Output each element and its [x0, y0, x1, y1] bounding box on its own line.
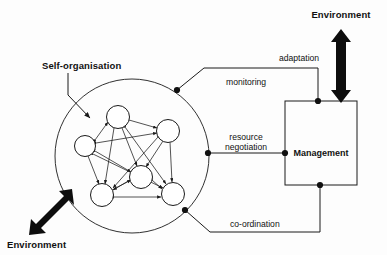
- network-node: [75, 136, 96, 157]
- management-label: Management: [293, 148, 348, 158]
- environment-top-label: Environment: [311, 9, 371, 20]
- network-node: [162, 183, 185, 206]
- network-node: [91, 184, 114, 207]
- diagram-canvas: Management Self-organisation monitoring …: [0, 0, 387, 255]
- coordination-circle-dot: [182, 207, 188, 213]
- adaptation-box-top-dot: [315, 98, 321, 104]
- environment-top-arrow: [331, 29, 351, 103]
- coordination-label: co-ordination: [230, 219, 280, 229]
- resource-negotiation-label-line2: negotiation: [225, 142, 267, 152]
- resource-negotiation-label-line1: resource: [229, 132, 263, 142]
- monitoring-circle-dot: [174, 87, 180, 93]
- environment-bottom-label: Environment: [7, 239, 67, 250]
- self-organisation-label: Self-organisation: [42, 60, 121, 71]
- environment-bottom-arrow: [29, 189, 74, 235]
- self-organisation-pointer: [68, 73, 90, 118]
- network-nodes: [75, 106, 185, 207]
- coordination-box-dot: [317, 182, 323, 188]
- resource-box-dot: [282, 150, 288, 156]
- monitoring-label: monitoring: [226, 77, 266, 87]
- network-node: [157, 120, 180, 143]
- resource-circle-dot: [205, 150, 211, 156]
- management-box: [285, 101, 357, 185]
- network-node: [130, 166, 153, 189]
- adaptation-label: adaptation: [279, 53, 319, 63]
- network-node: [107, 106, 130, 129]
- diagram-svg: Management Self-organisation monitoring …: [0, 0, 387, 255]
